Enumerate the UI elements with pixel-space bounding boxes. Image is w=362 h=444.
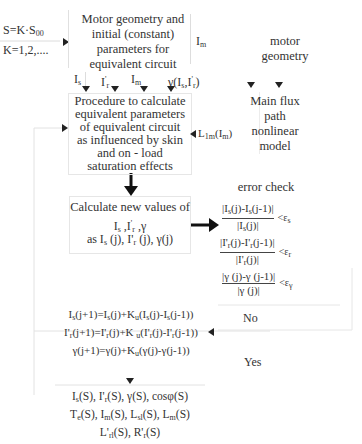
- motor-geometry-box: Motor geometry and initial (constant) pa…: [68, 10, 196, 68]
- box-line: parameters for: [69, 42, 197, 57]
- connector: [85, 72, 86, 86]
- output-line: L'rl(S), R'r(S): [55, 425, 205, 443]
- no-label: No: [243, 311, 258, 326]
- update-gamma: γ(j+1)=γ(j)+Ku(γ(j)-γ(j-1)): [56, 343, 206, 361]
- label-line: geometry: [250, 49, 320, 64]
- label-line: motor: [250, 34, 320, 49]
- k-range: K=1,2,....: [3, 44, 48, 57]
- error-condition-is: |Is(j)-Is(j-1)||Is(j)|<εs: [222, 202, 291, 235]
- procedure-box: Procedure to calculate equivalent parame…: [68, 93, 192, 175]
- arrow-down-icon: [167, 86, 175, 92]
- arrow-down-icon: [82, 86, 90, 92]
- label-line: path: [235, 109, 315, 124]
- slip-equation: S=K·S00: [3, 24, 44, 40]
- arrow-down-icon: [275, 82, 283, 88]
- label-line: model: [235, 139, 315, 154]
- main-flux-model: Main flux path nonlinear model: [235, 94, 315, 154]
- ir-label: I'r: [101, 73, 109, 92]
- calculate-box: Calculate new values of Is ,I'r ,γ as Is…: [69, 196, 191, 254]
- im-label: Im: [196, 35, 206, 51]
- label-line: nonlinear: [235, 124, 315, 139]
- error-check-title: error check: [226, 180, 306, 195]
- update-is: Is(j+1)=Is(j)+Ku(Is(j)-Is(j-1)): [56, 307, 206, 325]
- arrow-down-icon: [126, 378, 134, 384]
- arrow-down-icon: [247, 82, 255, 88]
- arrow-left-icon: [190, 130, 196, 138]
- error-condition-gamma: |γ (j)-γ (j-1)||γ (j)|<εγ: [222, 270, 293, 297]
- output-line: Te(S), Im(S), Lsl(S), Lm(S): [55, 407, 205, 425]
- update-equations: Is(j+1)=Is(j)+Ku(Is(j)-Is(j-1)) I'r(j+1)…: [56, 307, 206, 361]
- motor-geometry-label: motor geometry: [250, 34, 320, 64]
- box-line: Calculate new values of: [70, 200, 190, 215]
- update-ir: I'r(j+1)=I'r(j)+K u(I'r(j)-I'r(j-1)): [56, 325, 206, 343]
- output-line: Is(S), I'r(S), γ(S), cosφ(S): [55, 389, 205, 407]
- divider: [190, 14, 191, 64]
- arrow-right-icon: [62, 124, 68, 132]
- yes-label: Yes: [244, 355, 261, 370]
- label-line: Main flux: [235, 94, 315, 109]
- arrow-left-icon: [208, 328, 214, 336]
- box-line: saturation effects: [69, 159, 191, 174]
- outputs: Is(S), I'r(S), γ(S), cosφ(S) Te(S), Im(S…: [55, 389, 205, 443]
- arrow-down-icon: [140, 86, 148, 92]
- box-line: Motor geometry and: [69, 12, 197, 27]
- box-line: as Is (j), I'r (j), γ(j): [70, 232, 190, 250]
- is-label: Is: [74, 73, 81, 89]
- error-condition-ir: |I'r(j)-I'r(j-1)||I'r(j)|<εr: [220, 236, 291, 269]
- box-line: equivalent circuit: [69, 57, 197, 72]
- arrow-down-icon: [111, 86, 119, 92]
- box-line: initial (constant): [69, 27, 197, 42]
- l1m-label: L1m(Im): [198, 127, 232, 143]
